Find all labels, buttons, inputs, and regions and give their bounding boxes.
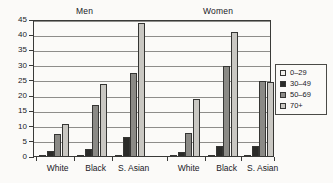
bar bbox=[193, 99, 200, 157]
x-axis-tick bbox=[274, 157, 275, 161]
legend-label: 30–49 bbox=[290, 80, 311, 88]
y-axis-label: 30 bbox=[7, 61, 27, 70]
x-axis-label: Black bbox=[208, 163, 246, 173]
legend: 0–2930–4950–6970+ bbox=[275, 64, 327, 115]
x-axis-tick bbox=[167, 157, 168, 161]
bar bbox=[223, 66, 230, 157]
legend-swatch-icon bbox=[280, 92, 286, 98]
y-axis-label: 25 bbox=[7, 76, 27, 85]
bar bbox=[185, 133, 192, 157]
bar bbox=[92, 105, 99, 157]
chart-figure: Men Women 051015202530354045 WhiteBlackS… bbox=[0, 0, 333, 183]
bar bbox=[138, 23, 145, 157]
x-axis-tick bbox=[112, 157, 113, 161]
y-axis-label: 40 bbox=[7, 30, 27, 39]
panel-title-women: Women bbox=[203, 6, 233, 16]
y-axis-label: 35 bbox=[7, 45, 27, 54]
legend-item[interactable]: 50–69 bbox=[280, 90, 323, 100]
x-axis-tick bbox=[74, 157, 75, 161]
bar bbox=[231, 32, 238, 157]
bar-series-layer bbox=[33, 20, 271, 157]
bar bbox=[259, 81, 266, 157]
x-axis-label: Black bbox=[77, 163, 115, 173]
legend-label: 50–69 bbox=[290, 91, 311, 99]
y-axis-label: 45 bbox=[7, 15, 27, 24]
legend-swatch-icon bbox=[280, 103, 286, 109]
bar bbox=[100, 84, 107, 157]
legend-label: 70+ bbox=[290, 102, 303, 110]
x-axis-tick bbox=[36, 157, 37, 161]
bar bbox=[62, 124, 69, 157]
legend-swatch-icon bbox=[280, 70, 286, 76]
legend-item[interactable]: 0–29 bbox=[280, 68, 323, 78]
x-axis-label: S. Asian bbox=[244, 163, 282, 173]
bar bbox=[54, 134, 61, 157]
y-axis-label: 20 bbox=[7, 91, 27, 100]
legend-item[interactable]: 30–49 bbox=[280, 79, 323, 89]
legend-swatch-icon bbox=[280, 81, 286, 87]
bar bbox=[123, 137, 130, 157]
bar bbox=[130, 73, 137, 157]
y-axis-label: 0 bbox=[7, 152, 27, 161]
x-axis-tick bbox=[205, 157, 206, 161]
x-axis-label: White bbox=[170, 163, 208, 173]
x-axis-line bbox=[33, 156, 271, 157]
x-axis-label: S. Asian bbox=[115, 163, 153, 173]
x-axis-label: White bbox=[39, 163, 77, 173]
y-axis-label: 10 bbox=[7, 122, 27, 131]
y-axis-label: 5 bbox=[7, 137, 27, 146]
bar bbox=[267, 82, 274, 157]
y-axis-label: 15 bbox=[7, 106, 27, 115]
legend-label: 0–29 bbox=[290, 69, 307, 77]
legend-item[interactable]: 70+ bbox=[280, 101, 323, 111]
x-axis-tick bbox=[241, 157, 242, 161]
panel-title-men: Men bbox=[76, 6, 93, 16]
